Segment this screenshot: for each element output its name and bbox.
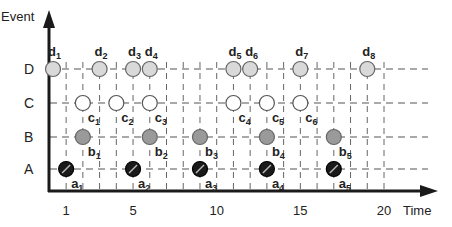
event-label: a1 (71, 176, 83, 193)
row-label-D: D (24, 61, 34, 77)
event-d6: d6 (243, 44, 258, 77)
row-labels: DCBA (24, 61, 34, 177)
grid-lines (50, 62, 428, 189)
event-b1: b1 (75, 130, 100, 162)
x-tick-labels: 15101520 (63, 203, 392, 218)
event-marker-icon (293, 62, 308, 77)
event-d7: d7 (293, 44, 308, 77)
event-label: c3 (155, 110, 167, 127)
x-tick-label: 5 (129, 203, 136, 218)
event-marker-icon (226, 62, 241, 77)
row-label-C: C (24, 95, 34, 111)
x-tick-label: 15 (293, 203, 307, 218)
event-label: b4 (272, 144, 285, 161)
event-d3: d3 (126, 44, 141, 77)
event-label: c1 (88, 110, 100, 127)
event-marker-icon (360, 62, 375, 77)
x-axis-arrow-icon (420, 185, 438, 197)
event-d2: d2 (92, 44, 107, 77)
event-markers: d1d2d3d4d5d6d7d8c1c2c3c4c5c6b1b2b3b4b5a1… (46, 44, 376, 193)
x-axis-label: Time (403, 203, 431, 218)
event-a3: a3 (192, 162, 217, 194)
event-label: b5 (339, 144, 352, 161)
event-c3: c3 (142, 96, 167, 128)
event-label: c6 (305, 110, 317, 127)
event-timeline-diagram: Event Time DCBA 15101520 d1d2d3d4d5d6d7d… (0, 0, 452, 227)
event-marker-icon (259, 96, 274, 111)
event-marker-icon (142, 96, 157, 111)
row-label-B: B (24, 129, 33, 145)
event-label: d8 (362, 44, 375, 61)
event-label: c4 (238, 110, 250, 127)
event-marker-icon (142, 130, 157, 145)
event-label: a3 (205, 176, 217, 193)
event-c4: c4 (226, 96, 251, 128)
event-marker-icon (259, 130, 274, 145)
event-label: a4 (272, 176, 284, 193)
event-marker-icon (293, 96, 308, 111)
event-label: d4 (145, 44, 158, 61)
event-label: d6 (245, 44, 258, 61)
event-label: b1 (88, 144, 101, 161)
event-d8: d8 (360, 44, 375, 77)
event-marker-icon (192, 130, 207, 145)
event-marker-icon (126, 62, 141, 77)
event-b4: b4 (259, 130, 284, 162)
event-c6: c6 (293, 96, 318, 128)
event-d4: d4 (142, 44, 157, 77)
event-marker-icon (92, 62, 107, 77)
event-a2: a2 (126, 162, 151, 194)
event-c1: c1 (75, 96, 100, 128)
event-marker-icon (75, 96, 90, 111)
event-a1: a1 (59, 162, 84, 194)
row-label-A: A (24, 161, 34, 177)
event-label: c2 (121, 110, 133, 127)
event-label: a2 (138, 176, 150, 193)
x-tick-label: 20 (377, 203, 391, 218)
event-b3: b3 (192, 130, 217, 162)
y-axis-arrow-icon (43, 10, 55, 28)
event-a5: a5 (326, 162, 351, 194)
event-b5: b5 (326, 130, 351, 162)
event-c5: c5 (259, 96, 284, 128)
event-label: b2 (155, 144, 168, 161)
event-marker-icon (226, 96, 241, 111)
event-marker-icon (243, 62, 258, 77)
event-marker-icon (142, 62, 157, 77)
event-label: d5 (228, 44, 241, 61)
event-marker-icon (326, 130, 341, 145)
event-a4: a4 (259, 162, 284, 194)
event-label: d2 (95, 44, 108, 61)
event-c2: c2 (109, 96, 134, 128)
x-tick-label: 1 (63, 203, 70, 218)
event-label: a5 (339, 176, 351, 193)
event-d5: d5 (226, 44, 241, 77)
event-marker-icon (75, 130, 90, 145)
event-label: c5 (272, 110, 284, 127)
y-axis-label: Event (1, 9, 35, 24)
event-b2: b2 (142, 130, 167, 162)
event-label: d3 (128, 44, 141, 61)
event-marker-icon (109, 96, 124, 111)
event-label: d7 (295, 44, 308, 61)
event-marker-icon (46, 62, 61, 77)
event-label: d1 (48, 44, 61, 61)
x-tick-label: 10 (209, 203, 223, 218)
event-label: b3 (205, 144, 218, 161)
